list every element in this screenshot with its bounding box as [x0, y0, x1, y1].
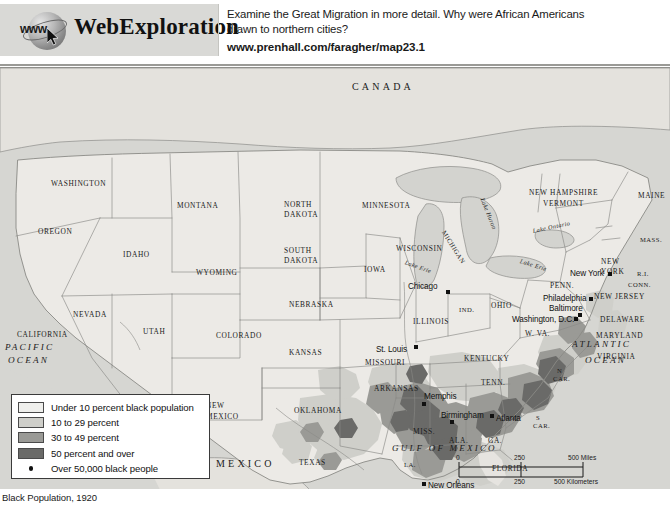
legend-row-2: 30 to 49 percent — [18, 430, 203, 445]
legend-city-dot-icon — [29, 466, 34, 471]
scale-miles-zero: 0 — [456, 454, 460, 461]
prompt-line-2: drawn to northern cities? — [227, 22, 657, 37]
legend-swatch-2 — [18, 432, 44, 443]
map-legend: Under 10 percent black population10 to 2… — [11, 394, 210, 479]
legend-label-4: Over 50,000 black people — [51, 463, 158, 474]
scale-miles-end: 500 Miles — [568, 454, 596, 461]
legend-row-0: Under 10 percent black population — [18, 400, 203, 415]
city-dot-washington-d-c — [574, 317, 578, 321]
legend-dot-marker — [18, 466, 44, 471]
legend-swatch-1 — [18, 417, 44, 428]
city-dot-philadelphia — [589, 297, 593, 301]
city-dot-memphis — [422, 402, 426, 406]
legend-row-1: 10 to 29 percent — [18, 415, 203, 430]
web-exploration-header: www WebExploration Examine the Great Mig… — [0, 0, 670, 67]
legend-label-0: Under 10 percent black population — [51, 402, 194, 413]
prompt-url[interactable]: www.prenhall.com/faragher/map23.1 — [227, 39, 657, 54]
scale-km-mid: 250 — [514, 478, 525, 485]
map-figure: CANADAMEXICOPACIFICOCEANATLANTICOCEANGUL… — [0, 67, 670, 489]
www-globe-icon: www — [22, 10, 68, 52]
map-canvas: CANADAMEXICOPACIFICOCEANATLANTICOCEANGUL… — [0, 68, 670, 489]
legend-row-3: 50 percent and over — [18, 446, 203, 461]
brand-web: Web — [74, 14, 119, 39]
city-dot-baltimore — [578, 313, 582, 317]
header-prompt: Examine the Great Migration in more deta… — [227, 7, 657, 54]
header-divider — [218, 4, 219, 56]
city-dot-chicago — [446, 290, 450, 294]
legend-row-4: Over 50,000 black people — [18, 461, 203, 476]
mouse-cursor-icon — [47, 28, 60, 46]
scale-km-end: 500 Kilometers — [554, 478, 598, 485]
header-rule — [0, 64, 670, 66]
prompt-line-1: Examine the Great Migration in more deta… — [227, 7, 657, 22]
city-dot-atlanta — [490, 414, 494, 418]
brand-exploration: Exploration — [119, 14, 239, 39]
legend-label-2: 30 to 49 percent — [51, 432, 119, 443]
scale-km-zero: 0 — [456, 478, 460, 485]
legend-swatch-3 — [18, 448, 44, 459]
city-dot-st-louis — [414, 345, 418, 349]
city-dot-new-orleans — [422, 482, 426, 486]
scale-bar: 0 250 500 Miles 0 250 500 Kilometers — [455, 453, 615, 487]
globe-www-label: www — [20, 22, 47, 36]
city-dot-birmingham — [450, 420, 454, 424]
legend-label-1: 10 to 29 percent — [51, 417, 119, 428]
brand-title: WebExploration — [74, 14, 239, 40]
legend-label-3: 50 percent and over — [51, 448, 134, 459]
figure-caption: Black Population, 1920 — [0, 492, 670, 506]
legend-swatch-0 — [18, 402, 44, 413]
city-dot-new-york — [608, 272, 612, 276]
scale-miles-mid: 250 — [514, 454, 525, 461]
caption-text: Black Population, 1920 — [2, 492, 97, 503]
